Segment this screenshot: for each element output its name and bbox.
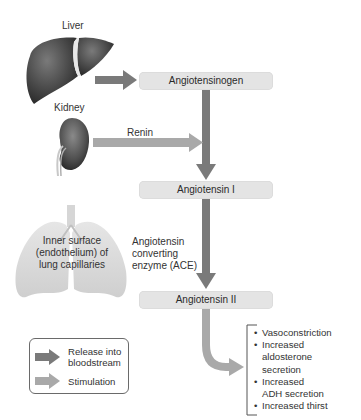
- ace-label-line-3: enzyme (ACE): [132, 260, 197, 272]
- ace-label: Angiotensin converting enzyme (ACE): [132, 236, 197, 272]
- kidney-icon: [52, 116, 92, 178]
- effect-item: Increased ADH secretion: [254, 376, 332, 400]
- ace-label-line-1: Angiotensin: [132, 236, 197, 248]
- release-arrow-icon: [35, 349, 61, 365]
- stimulation-arrow-icon: [35, 373, 61, 389]
- lungs-label-line-3: lung capillaries: [20, 259, 124, 271]
- legend: Release into bloodstream Stimulation: [29, 338, 129, 394]
- legend-stimulation: Stimulation: [30, 373, 115, 389]
- legend-release-line-1: Release into: [68, 346, 121, 357]
- effect-item: Vasoconstriction: [254, 327, 332, 339]
- angiotensin-i-box: Angiotensin I: [139, 181, 273, 199]
- legend-stimulation-label: Stimulation: [68, 376, 115, 387]
- legend-release: Release into bloodstream: [30, 346, 121, 368]
- effects-list: Vasoconstriction Increased aldosterone s…: [254, 327, 332, 412]
- effect-item: Increased thirst: [254, 400, 332, 412]
- lungs-label: Inner surface (endothelium) of lung capi…: [20, 235, 124, 271]
- effect-item: Increased aldosterone secretion: [254, 339, 332, 376]
- angiotensin-ii-box: Angiotensin II: [139, 291, 273, 309]
- ace-label-line-2: converting: [132, 248, 197, 260]
- release-arrow-down-2: [196, 199, 216, 289]
- stimulation-arrow-effects: [196, 309, 248, 381]
- legend-release-line-2: bloodstream: [68, 357, 121, 368]
- release-arrow-liver: [95, 70, 139, 90]
- lungs-label-line-2: (endothelium) of: [20, 247, 124, 259]
- liver-label: Liver: [62, 20, 84, 31]
- kidney-label: Kidney: [54, 102, 85, 113]
- angiotensinogen-box: Angiotensinogen: [139, 72, 273, 90]
- stimulation-arrow-renin: [93, 133, 205, 153]
- lungs-label-line-1: Inner surface: [20, 235, 124, 247]
